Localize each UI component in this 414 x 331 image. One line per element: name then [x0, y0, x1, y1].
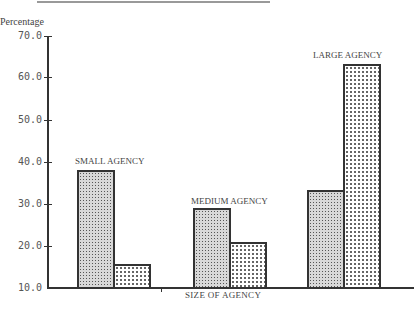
y-tick-label-40: 40.0 [6, 156, 42, 167]
bar-medium-series1 [193, 208, 231, 288]
bar-medium-series2 [229, 242, 267, 288]
category-label-medium: MEDIUM AGENCY [191, 196, 268, 206]
bar-small-series1 [77, 170, 115, 288]
y-tick [44, 120, 52, 121]
y-tick-label-60: 60.0 [6, 71, 42, 82]
y-tick-label-20: 20.0 [6, 240, 42, 251]
y-tick [44, 77, 52, 78]
y-axis-label: Percentage [0, 16, 44, 27]
bar-large-series2 [343, 64, 381, 288]
y-tick-label-50: 50.0 [6, 114, 42, 125]
category-label-small: SMALL AGENCY [75, 156, 144, 166]
x-tick [161, 289, 162, 292]
y-tick [44, 204, 52, 205]
y-tick-label-10: 10.0 [6, 282, 42, 293]
y-tick [44, 36, 52, 37]
y-tick-label-30: 30.0 [6, 198, 42, 209]
y-tick-label-70: 70.0 [6, 30, 42, 41]
x-axis-label: SIZE OF AGENCY [185, 290, 261, 300]
bar-small-series2 [113, 264, 151, 288]
category-label-large: LARGE AGENCY [313, 50, 382, 60]
y-tick [44, 162, 52, 163]
x-axis [47, 287, 414, 289]
bar-large-series1 [307, 190, 345, 288]
top-rule [37, 1, 270, 3]
y-tick [44, 246, 52, 247]
